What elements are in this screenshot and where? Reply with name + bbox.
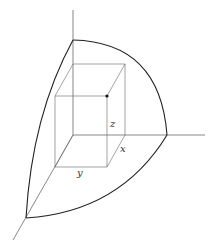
vertex-dot <box>105 94 108 97</box>
label-x: x <box>120 144 126 154</box>
sphere-arc-top-right <box>73 40 167 135</box>
box-edge-top-left-depth <box>55 64 73 96</box>
box-edge-bottom-left-depth <box>55 135 73 167</box>
box-edge-top-right-depth <box>107 64 125 96</box>
label-y: y <box>77 168 83 178</box>
sphere-arc-top-left <box>26 40 73 218</box>
diagram-canvas: z x y <box>0 0 215 249</box>
octant-sphere-diagram <box>0 0 215 249</box>
label-z: z <box>110 119 115 129</box>
sphere-arc-bottom <box>26 135 167 218</box>
